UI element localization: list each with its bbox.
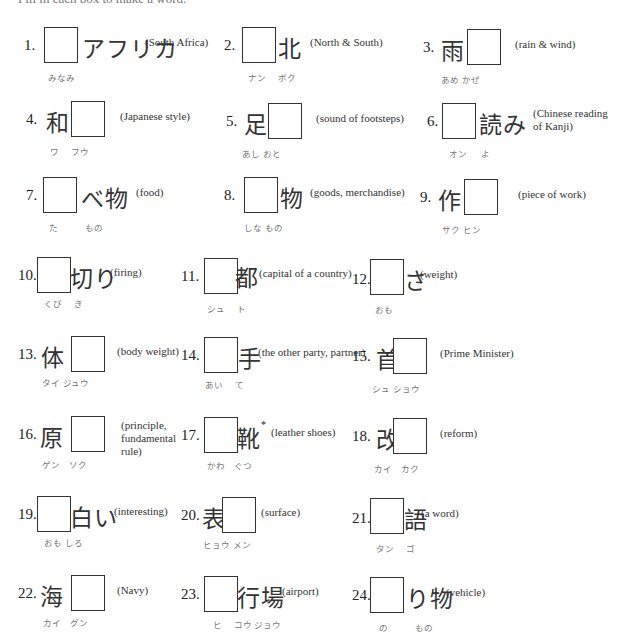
translation: (food) [136, 186, 164, 199]
exercise-item-18: 18. 改 (reform) カイ カク [352, 418, 557, 488]
exercise-item-2: 2. 北 (North & South) ナン ボク [224, 27, 429, 97]
word-part-after: 行場 [237, 579, 285, 613]
answer-box[interactable] [442, 103, 476, 139]
instruction-text: Fill in each box to make a word. [18, 0, 186, 7]
item-number: 21. [352, 510, 371, 527]
furigana: あし おと [242, 147, 281, 159]
answer-box[interactable] [393, 338, 427, 374]
item-number: 10. [18, 267, 37, 284]
item-number: 11. [181, 268, 199, 285]
item-number: 5. [226, 113, 237, 130]
translation: (goods, merchandise) [310, 186, 405, 199]
answer-box[interactable] [204, 576, 238, 612]
answer-box[interactable] [37, 257, 71, 293]
item-number: 8. [224, 187, 235, 204]
answer-box[interactable] [204, 417, 238, 453]
answer-box[interactable] [44, 27, 78, 63]
furigana: あめ かぜ [441, 73, 480, 85]
word-part-before: 雨 [441, 32, 465, 66]
answer-box[interactable] [204, 337, 238, 373]
answer-box[interactable] [370, 498, 404, 534]
item-number: 24. [352, 587, 371, 604]
item-number: 4. [26, 111, 37, 128]
translation: (leather shoes) [271, 426, 335, 439]
translation: (Navy) [117, 584, 148, 597]
word-part-after: べ物 [81, 180, 129, 214]
exercise-item-12: 12. さ (weight) おも [352, 259, 557, 329]
exercise-item-8: 8. 物 (goods, merchandise) しな もの [224, 177, 429, 247]
word-part-after: 白い [70, 499, 118, 533]
item-number: 9. [420, 189, 431, 206]
word-part-after: 物 [280, 180, 304, 214]
translation: (surface) [261, 506, 300, 519]
word-part-before: 原 [40, 419, 64, 453]
furigana: みなみ [48, 71, 75, 83]
furigana: ナン ボク [248, 71, 296, 83]
furigana: た もの [49, 221, 103, 233]
answer-box[interactable] [467, 29, 501, 65]
exercise-item-4: 4. 和 (Japanese style) ワ フウ [26, 101, 231, 171]
exercise-item-24: 24. り物 (vehicle) の もの [352, 577, 557, 642]
translation: (the other party, partner) [258, 346, 365, 359]
word-part-after: 北 [278, 30, 302, 64]
furigana: シュ ト [207, 302, 246, 314]
word-part-before: 足 [244, 106, 268, 140]
answer-box[interactable] [268, 103, 302, 139]
word-part-after: 都 [235, 259, 259, 293]
answer-box[interactable] [242, 27, 276, 63]
exercise-item-15: 15. 首 (Prime Minister) シュ ショウ [352, 338, 557, 408]
answer-box[interactable] [244, 177, 278, 213]
item-number: 14. [181, 347, 200, 364]
furigana: サク ヒン [442, 223, 481, 235]
translation: (reform) [440, 427, 477, 440]
answer-box[interactable] [71, 336, 105, 372]
answer-box[interactable] [222, 497, 256, 533]
exercise-item-9: 9. 作 (piece of work) サク ヒン [420, 179, 625, 249]
word-part-before: 体 [41, 339, 65, 373]
item-number: 3. [423, 39, 434, 56]
exercise-item-6: 6. 読み (Chinese reading of Kanji) オン よ [427, 103, 625, 173]
answer-box[interactable] [370, 259, 404, 295]
furigana: おも しろ [44, 536, 83, 548]
translation: (firing) [110, 266, 142, 279]
translation: (weight) [420, 268, 457, 281]
translation: (interesting) [114, 505, 168, 518]
item-number: 18. [352, 428, 371, 445]
answer-box[interactable] [71, 416, 105, 452]
furigana: カイ グン [43, 616, 88, 628]
furigana: おも [375, 303, 393, 315]
translation: (vehicle) [446, 586, 485, 599]
answer-box[interactable] [204, 258, 238, 294]
item-number: 19. [18, 506, 37, 523]
answer-box[interactable] [464, 179, 498, 215]
answer-box[interactable] [71, 575, 105, 611]
furigana: タン ゴ [376, 542, 415, 554]
exercise-item-5: 5. 足 (sound of footsteps) あし おと [226, 103, 431, 173]
furigana: くび き [44, 297, 83, 309]
answer-box[interactable] [370, 577, 404, 613]
furigana: ヒョウ メン [203, 538, 251, 550]
translation: (South Africa) [145, 36, 208, 49]
translation: (a word) [421, 507, 459, 520]
word-part-before: 作 [438, 182, 462, 216]
translation: (body weight) [117, 345, 179, 358]
item-number: 20. [181, 507, 200, 524]
furigana: しな もの [244, 221, 283, 233]
exercise-item-21: 21. 語 (a word) タン ゴ [352, 498, 557, 568]
item-number: 17. [181, 427, 200, 444]
item-number: 2. [224, 37, 235, 54]
translation: (rain & wind) [515, 38, 575, 51]
answer-box[interactable] [71, 101, 105, 137]
exercise-item-7: 7. べ物 (food) た もの [26, 177, 231, 247]
answer-box[interactable] [37, 496, 71, 532]
answer-box[interactable] [393, 418, 427, 454]
word-part-after: 読み [479, 106, 527, 140]
translation: (piece of work) [518, 188, 586, 201]
furigana: かわ ぐつ [207, 459, 252, 471]
answer-box[interactable] [43, 177, 77, 213]
item-number: 7. [26, 187, 37, 204]
furigana: タイ ジュウ [42, 376, 89, 388]
furigana: ヒ コウ ジョウ [213, 618, 281, 630]
furigana: オン よ [449, 147, 490, 159]
item-number: 15. [352, 348, 371, 365]
